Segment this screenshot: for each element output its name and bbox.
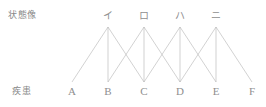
- edge-i-a: [72, 27, 108, 82]
- bottom-node-e: E: [213, 86, 220, 97]
- bottom-node-d: D: [176, 86, 184, 97]
- row-label-state-picture: 状態像: [8, 11, 37, 20]
- diagram-canvas: 状態像 疾患 イロハニ ABCDEF: [0, 0, 266, 107]
- bottom-node-f: F: [249, 86, 255, 97]
- edge-ni-f: [216, 27, 252, 82]
- bottom-node-a: A: [68, 86, 76, 97]
- edge-group: [72, 27, 252, 82]
- edge-layer: [0, 0, 266, 107]
- top-node-ni: ニ: [211, 11, 221, 21]
- top-node-ha: ハ: [175, 11, 185, 21]
- top-node-ro: ロ: [139, 11, 149, 21]
- bottom-node-c: C: [140, 86, 147, 97]
- row-label-disease: 疾患: [12, 87, 31, 96]
- bottom-node-b: B: [104, 86, 111, 97]
- top-node-i: イ: [103, 11, 113, 21]
